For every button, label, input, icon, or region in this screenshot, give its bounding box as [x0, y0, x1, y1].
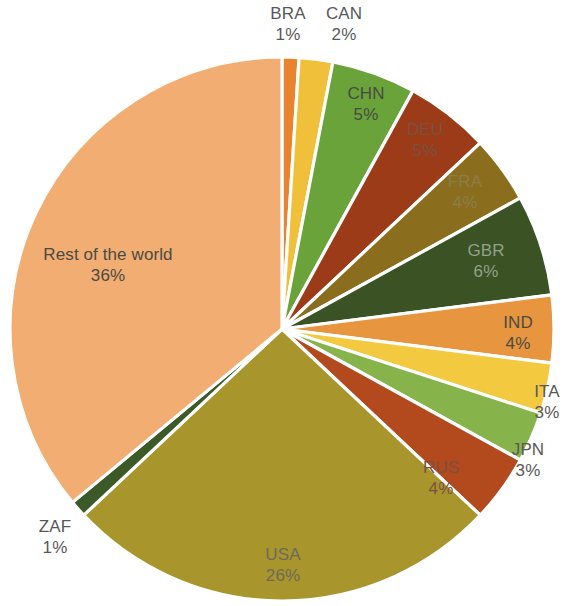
pie-chart: BRA1%CAN2%CHN5%DEU5%FRA4%GBR6%IND4%ITA3%… [0, 0, 569, 606]
pie-chart-canvas [0, 0, 569, 606]
